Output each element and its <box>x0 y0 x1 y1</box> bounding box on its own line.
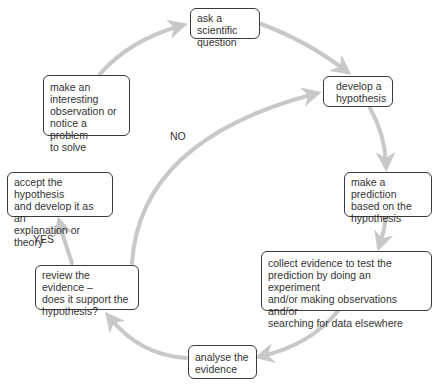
arrow-analyse-to-review <box>110 318 186 358</box>
arrow-observe-to-ask <box>100 26 180 74</box>
node-make-prediction: make a prediction based on the hypothesi… <box>344 172 432 217</box>
arrow-ask-to-develop <box>261 24 345 70</box>
node-develop-hypothesis: develop a hypothesis <box>323 76 393 107</box>
arrow-review-to-develop-no <box>132 94 314 263</box>
node-ask-question: ask a scientific question <box>190 8 260 39</box>
arrow-develop-to-predict <box>370 108 386 164</box>
node-make-observation: make an interesting observation or notic… <box>43 75 130 136</box>
node-review-evidence: review the evidence – does it support th… <box>35 265 139 310</box>
label-yes: YES <box>33 233 54 245</box>
node-collect-evidence: collect evidence to test the prediction … <box>261 251 432 311</box>
label-no: NO <box>170 130 186 142</box>
node-accept-hypothesis: accept the hypothesis and develop it as … <box>7 172 113 217</box>
node-analyse-evidence: analyse the evidence <box>188 345 257 379</box>
